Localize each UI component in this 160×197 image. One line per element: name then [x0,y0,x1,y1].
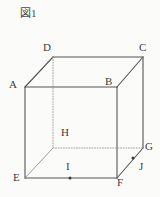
cube-diagram [0,0,160,197]
vertex-label-F: F [117,177,123,188]
figure-canvas: 図1 ABCDEFGHIJ [0,0,160,197]
cube-edge-EH [25,148,53,178]
point-label-J: J [139,161,143,172]
vertex-label-B: B [105,76,112,87]
vertex-label-E: E [13,172,20,183]
vertex-label-A: A [9,79,17,90]
point-label-I: I [66,161,70,172]
marked-point-dots [69,157,135,180]
vertex-label-D: D [43,42,51,53]
point-dot-I [69,177,72,180]
point-dot-J [132,157,135,160]
vertex-label-H: H [61,127,69,138]
vertex-label-G: G [145,141,153,152]
vertex-label-C: C [139,42,146,53]
cube-edges [25,57,143,178]
cube-edge-BC [117,57,143,87]
cube-edge-AD [25,57,53,87]
